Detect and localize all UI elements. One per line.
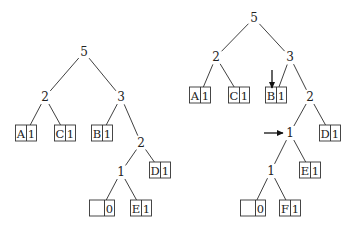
tree-edge [106, 179, 117, 200]
tree-edge [259, 24, 284, 51]
internal-node-weight: 2 [41, 90, 49, 104]
tree-edge [294, 140, 306, 162]
leaf-node: B1 [266, 87, 287, 103]
leaf-weight: 1 [312, 164, 319, 178]
tree-edge [30, 104, 41, 125]
tree-edge [294, 104, 306, 126]
leaf-node: C1 [55, 125, 76, 141]
leaf-node: B1 [92, 125, 113, 141]
tree-edge [125, 179, 137, 200]
leaf-weight: 1 [278, 89, 285, 103]
tree-edge [50, 58, 79, 91]
internal-node-weight: 3 [117, 90, 125, 104]
leaf-weight: 1 [67, 127, 74, 141]
leaf-symbol: E [301, 164, 309, 178]
leaf-weight: 0 [106, 202, 113, 216]
tree-edge [124, 104, 138, 135]
leaf-node: C1 [229, 87, 250, 103]
leaf-weight: 1 [202, 89, 209, 103]
internal-node-weight: 3 [286, 50, 294, 64]
tree-edge [146, 150, 155, 162]
internal-node-weight: 2 [306, 90, 314, 104]
huffman-tree-diagram: 52321A1C1B1D10E1523211A1C1B1D1E10F1 [0, 0, 354, 228]
tree-edge [220, 64, 234, 87]
leaf-node: D1 [150, 162, 171, 178]
tree-edge [222, 24, 249, 52]
leaf-weight: 1 [28, 127, 35, 141]
tree-edge [89, 58, 116, 91]
leaf-node: A1 [190, 87, 211, 103]
leaf-symbol: C [230, 89, 239, 103]
leaf-symbol: F [281, 202, 289, 216]
internal-node-weight: 1 [286, 126, 294, 140]
tree-edge [257, 178, 268, 200]
tree-edge [275, 178, 286, 200]
leaf-symbol: D [320, 127, 329, 141]
internal-node-weight: 1 [117, 165, 125, 179]
leaf-node: 0 [90, 200, 115, 216]
leaf-symbol: A [16, 127, 26, 141]
leaf-node: A1 [16, 125, 37, 141]
internal-node-weight: 1 [267, 164, 275, 178]
internal-node-weight: 5 [80, 45, 88, 59]
leaf-node: F1 [280, 200, 301, 216]
leaf-weight: 1 [162, 164, 169, 178]
leaf-weight: 1 [143, 202, 150, 216]
leaf-node: E1 [131, 200, 152, 216]
leaf-symbol: B [267, 89, 275, 103]
leaf-node: E1 [300, 162, 321, 178]
tree-edge [203, 64, 213, 87]
leaf-weight: 1 [292, 202, 299, 216]
leaf-node: 0 [241, 200, 266, 216]
tree-edge [294, 64, 307, 90]
leaf-symbol: C [56, 127, 65, 141]
leaf-weight: 0 [257, 202, 264, 216]
leaf-weight: 1 [104, 127, 111, 141]
leaf-weight: 1 [332, 127, 339, 141]
tree-edge [314, 104, 326, 125]
leaf-symbol: B [93, 127, 101, 141]
leaf-node: D1 [320, 125, 341, 141]
tree-edge [279, 65, 287, 87]
internal-node-weight: 5 [250, 11, 258, 25]
internal-node-weight: 2 [137, 136, 145, 150]
leaf-symbol: D [150, 164, 159, 178]
leaf-symbol: E [132, 202, 140, 216]
tree-edge [126, 150, 137, 166]
leaf-symbol: A [190, 89, 200, 103]
tree-edge [106, 104, 117, 125]
internal-node-weight: 2 [212, 50, 220, 64]
tree-edge [275, 140, 287, 164]
leaf-weight: 1 [241, 89, 248, 103]
tree-edge [49, 104, 61, 125]
